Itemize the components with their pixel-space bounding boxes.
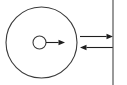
upper-force-arrow-head-right	[107, 34, 114, 40]
upper-force-arrow	[80, 34, 113, 40]
lower-force-arrow	[80, 45, 113, 51]
physics-diagram	[0, 0, 127, 85]
radius-arrow-head-right	[59, 40, 66, 46]
diagram-canvas	[0, 0, 127, 85]
radius-arrow	[46, 40, 65, 46]
small-circle-hub	[33, 36, 46, 49]
lower-force-arrow-head-left	[80, 45, 87, 51]
